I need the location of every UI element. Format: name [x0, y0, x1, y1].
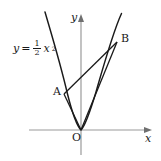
equation-lhs: y: [13, 43, 19, 54]
parabola-figure: y = 1 2 x2 A B O x y: [0, 0, 161, 161]
point-label-A: A: [53, 86, 61, 97]
equation-variable: x: [44, 43, 50, 54]
equation-fraction: 1 2: [33, 40, 40, 58]
equation-equals: =: [21, 43, 30, 54]
parabola-curve: [45, 12, 122, 130]
equation-label: y = 1 2 x2: [13, 40, 56, 58]
point-label-O: O: [72, 132, 81, 143]
y-axis-label: y: [71, 12, 77, 23]
fraction-numerator: 1: [33, 40, 40, 48]
x-axis-label: x: [145, 133, 151, 144]
point-label-B: B: [121, 33, 129, 44]
segment-AB: [64, 42, 117, 94]
y-axis-arrowhead: [78, 14, 84, 22]
segment-OB: [81, 42, 117, 130]
segment-OA: [64, 94, 81, 130]
fraction-denominator: 2: [33, 48, 40, 57]
